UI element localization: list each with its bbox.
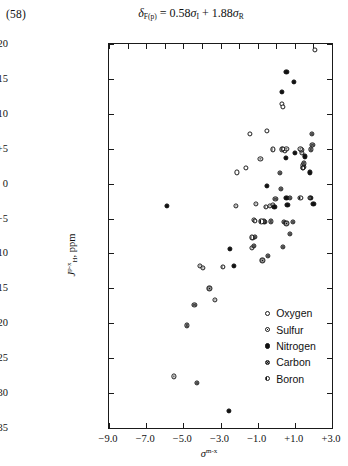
x-axis-minor-tick [276,44,277,49]
data-point-nitrogen [311,201,316,206]
legend-item-nitrogen: Nitrogen [265,338,345,354]
data-point-carbon [278,186,283,191]
data-point-oxygen [243,165,248,170]
y-axis-tick [109,323,114,324]
data-point-carbon [184,323,189,328]
data-point-oxygen [235,170,240,175]
data-point-oxygen [264,129,269,134]
data-point-oxygen [280,104,285,109]
data-point-sulfur [234,203,239,208]
y-axis-tick-label: +15 [0,72,8,83]
data-point-carbon [265,253,270,258]
x-axis-tick [183,423,184,428]
x-axis-tick [221,44,222,49]
y-axis-tick [327,428,332,429]
x-axis-tick [295,44,296,49]
x-axis-tick-label: −7.0 [136,433,155,444]
y-axis-symbol: J [66,272,77,277]
data-point-boron [270,147,275,152]
equation-term2-coefficient: 1.88 [212,6,233,20]
data-point-nitrogen [291,79,296,84]
x-axis-tick-label: +1.0 [284,433,303,444]
x-axis-minor-tick [239,44,240,49]
x-axis-superscript: m-x [206,447,217,455]
x-axis-tick [146,44,147,49]
y-axis-tick [109,253,114,254]
data-point-carbon [308,147,313,152]
y-axis-tick [109,79,114,80]
data-point-nitrogen [283,155,288,160]
data-point-carbon [309,131,314,136]
data-point-nitrogen [307,170,312,175]
x-axis-tick [221,423,222,428]
y-axis-tick [109,219,114,220]
data-point-oxygen [248,131,253,136]
legend-item-carbon: Carbon [265,354,345,370]
equation-display: δF(p)=0.58σI+1.88σR [0,6,348,21]
y-axis-tick-label: +5 [0,142,8,153]
data-point-sulfur [171,374,176,379]
legend-item-sulfur: Sulfur [265,321,345,337]
data-point-boron [252,218,257,223]
y-axis-tick-label: +10 [0,107,8,118]
x-axis-title: σm-x [0,448,348,459]
data-point-sulfur [258,157,263,162]
data-point-nitrogen [164,203,169,208]
y-axis-superscript: p-x [65,262,73,271]
x-axis-minor-tick [165,44,166,49]
legend-label-carbon: Carbon [276,356,310,368]
x-axis-tick [109,423,110,428]
y-axis-tick [327,288,332,289]
equation-term2-subscript: R [239,12,244,21]
data-point-carbon [251,243,256,248]
y-axis-tick [109,184,114,185]
legend-marker-oxygen-icon [265,311,270,316]
data-point-boron [298,195,303,200]
x-axis-minor-tick [202,44,203,49]
y-axis-tick-label: 0 [0,177,8,188]
y-axis-tick [327,253,332,254]
x-axis-tick [183,44,184,49]
legend-marker-boron-icon [265,376,270,381]
legend-label-oxygen: Oxygen [276,307,312,319]
data-point-nitrogen [285,202,290,207]
y-axis-tick-label: −20 [0,317,8,328]
legend-marker-carbon-icon [265,360,270,365]
y-axis-tick [109,114,114,115]
y-axis-tick-label: −15 [0,282,8,293]
y-axis-tick [109,149,114,150]
legend-item-oxygen: Oxygen [265,305,345,321]
equation-plus: + [199,6,212,20]
data-point-boron [221,264,226,269]
y-axis-tick-label: +20 [0,38,8,49]
data-point-boron [263,204,268,209]
data-point-nitrogen [227,247,232,252]
x-axis-tick [109,44,110,49]
data-point-nitrogen [284,69,289,74]
x-axis-tick [146,423,147,428]
y-axis-tick-label: −10 [0,247,8,258]
data-point-carbon [273,196,278,201]
data-point-sulfur [212,297,217,302]
y-axis-tick-label: −25 [0,352,8,363]
x-axis-tick [332,423,333,428]
data-point-nitrogen [226,409,231,414]
x-axis-tick [332,44,333,49]
legend-marker-nitrogen-icon [265,343,270,348]
data-point-carbon [207,286,212,291]
y-axis-tick [327,114,332,115]
legend-item-boron: Boron [265,371,345,387]
y-axis-tick [109,288,114,289]
data-point-nitrogen [279,90,284,95]
y-axis-tick [109,358,114,359]
data-point-sulfur [200,266,205,271]
equation-term1-subscript: I [196,12,199,21]
data-point-carbon [288,231,293,236]
y-axis-tick-label: −30 [0,387,8,398]
y-axis-tick [327,184,332,185]
equation-term1-coefficient: 0.58 [170,6,191,20]
data-point-nitrogen [292,150,297,155]
equation-term2-symbol: σ [233,6,239,20]
x-axis-tick [295,423,296,428]
data-point-carbon [284,221,289,226]
